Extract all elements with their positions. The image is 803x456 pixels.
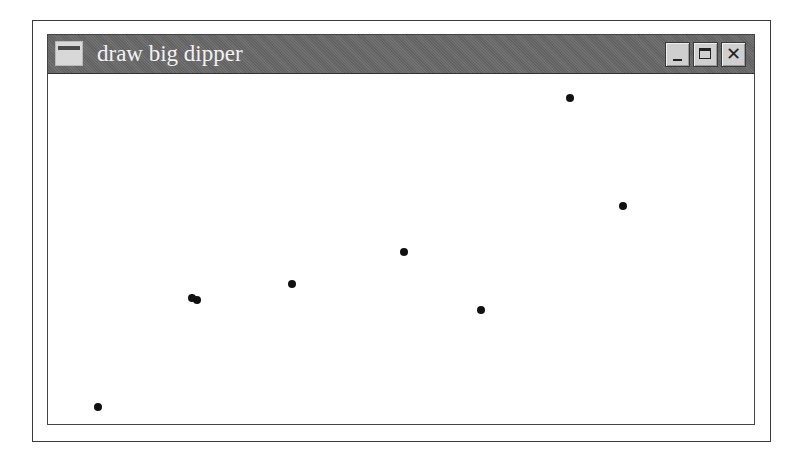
close-button[interactable]: ✕ [721,42,746,67]
star-point [619,202,627,210]
maximize-icon [699,48,711,59]
star-point [400,248,408,256]
star-point [566,94,574,102]
minimize-icon [673,59,682,61]
close-icon: ✕ [725,44,742,64]
app-window: draw big dipper ✕ [47,34,755,425]
maximize-button[interactable] [693,42,718,67]
star-point [477,306,485,314]
star-point [94,403,102,411]
drawing-canvas[interactable] [48,74,754,424]
minimize-button[interactable] [665,42,690,67]
star-point [193,296,201,304]
window-menu-icon[interactable] [55,41,83,66]
star-point [288,280,296,288]
window-title: draw big dipper [97,40,243,68]
title-bar[interactable]: draw big dipper ✕ [48,35,754,74]
